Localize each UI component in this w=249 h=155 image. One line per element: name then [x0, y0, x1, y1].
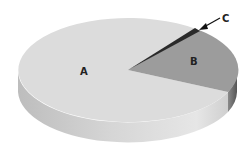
- label-a: A: [80, 66, 88, 77]
- label-b: B: [190, 56, 198, 67]
- label-c: C: [222, 13, 229, 24]
- pie-chart-3d: A B C: [0, 0, 249, 155]
- arrow-icon: [199, 18, 220, 30]
